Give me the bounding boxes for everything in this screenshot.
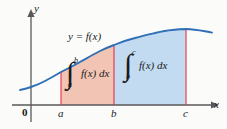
integral-expression-b-to-c: ∫ c b f(x) dx: [124, 50, 167, 80]
integral-lower-limit-right: b: [126, 73, 130, 81]
integrand-right: f(x) dx: [139, 59, 167, 71]
integral-upper-limit-left: b: [74, 57, 78, 65]
function-curve-label: y = f(x): [68, 31, 101, 42]
integral-upper-limit-right: c: [132, 49, 136, 57]
integral-additivity-figure: y x 0 a b c y = f(x) ∫ b a f(x) dx ∫ c b…: [0, 0, 227, 129]
tick-label-b: b: [111, 108, 117, 119]
integrand-left: f(x) dx: [81, 67, 109, 79]
y-axis-label: y: [34, 3, 39, 14]
integral-lower-limit-left: a: [68, 81, 72, 89]
tick-label-a: a: [58, 108, 64, 119]
integral-expression-a-to-b: ∫ b a f(x) dx: [66, 58, 109, 88]
origin-label: 0: [22, 107, 28, 118]
tick-label-c: c: [183, 108, 188, 119]
x-axis-label: x: [214, 99, 219, 110]
